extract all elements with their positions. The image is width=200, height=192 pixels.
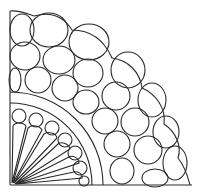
rose-window-svg	[0, 0, 200, 192]
radiating-petals	[12, 123, 82, 184]
rose-window-drawing	[0, 0, 200, 192]
